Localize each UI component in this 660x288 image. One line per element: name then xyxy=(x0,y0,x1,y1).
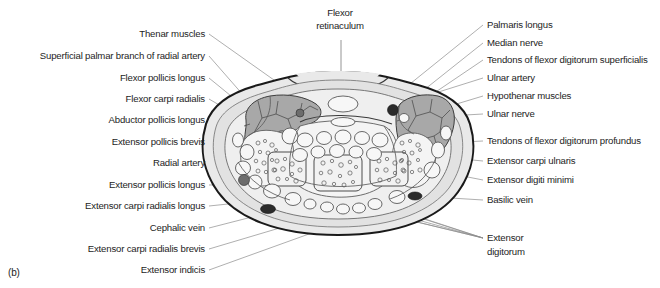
tendon-fds xyxy=(355,132,370,145)
label-ulnar-artery: Ulnar artery xyxy=(487,72,535,83)
tendon-fds xyxy=(372,133,388,147)
tendon-fdp xyxy=(311,146,325,158)
tendon-extensor-digiti-minimi xyxy=(389,191,405,204)
cephalic-vein-vessel xyxy=(261,205,276,214)
label-extensor-pollicis-brevis: Extensor pollicis brevis xyxy=(112,136,206,147)
tendon-abductor-pollicis-longus xyxy=(236,161,251,175)
label-abductor-pollicis-longus: Abductor pollicis longus xyxy=(109,114,206,125)
tendon-fdp xyxy=(367,148,382,161)
label-extensor-digitorum: Extensor digitorum xyxy=(487,232,525,257)
label-flexor-pollicis-longus: Flexor pollicis longus xyxy=(120,72,205,83)
tendon-extensor-indicis xyxy=(304,199,316,209)
label-flexor-retinaculum: Flexor retinaculum xyxy=(316,7,364,31)
label-thenar-muscles: Thenar muscles xyxy=(139,28,205,39)
label-cephalic-vein: Cephalic vein xyxy=(150,222,205,233)
label-tendons-flexor-digitorum-profundus: Tendons of flexor digitorum profundus xyxy=(487,135,641,146)
tendon-extensor-carpi-ulnaris xyxy=(424,162,440,178)
superficial-palmar-branch-radial-artery-vessel xyxy=(296,109,304,117)
tendon-extensor-digitorum xyxy=(321,202,334,212)
wrist-section xyxy=(203,71,474,235)
label-flexor-carpi-radialis: Flexor carpi radialis xyxy=(126,93,206,104)
tendon-fds xyxy=(335,130,351,144)
label-superficial-palmar-branch-radial-artery: Superficial palmar branch of radial arte… xyxy=(40,50,206,61)
tendon-ulnar-small xyxy=(441,126,452,140)
tendon-fds xyxy=(317,132,332,145)
tendon-palmaris-longus xyxy=(328,96,358,112)
tendon-fds xyxy=(297,133,313,147)
label-flexor-retinaculum-line1: Flexor xyxy=(327,7,354,18)
label-extensor-pollicis-longus: Extensor pollicis longus xyxy=(109,179,205,190)
basilic-vein-vessel xyxy=(408,192,422,200)
ulnar-artery-vessel xyxy=(388,105,399,116)
figure-panel: Flexor retinaculum Thenar muscles Superf… xyxy=(0,0,660,288)
label-extensor-indicis: Extensor indicis xyxy=(141,264,206,275)
tendon-ulnar-extra xyxy=(432,142,445,158)
label-extensor-carpi-radialis-brevis: Extensor carpi radialis brevis xyxy=(88,243,206,254)
label-radial-artery: Radial artery xyxy=(153,157,205,168)
label-median-nerve: Median nerve xyxy=(487,37,543,48)
wrist-cross-section-figure: Flexor retinaculum Thenar muscles Superf… xyxy=(0,0,660,288)
label-basilic-vein: Basilic vein xyxy=(487,194,533,205)
tendon-flexor-carpi-radialis xyxy=(240,145,254,160)
label-flexor-retinaculum-line2: retinaculum xyxy=(316,20,364,31)
tendon-radial-small xyxy=(233,133,244,147)
label-extensor-digiti-minimi: Extensor digiti minimi xyxy=(487,174,574,185)
radial-artery-vessel xyxy=(239,175,250,186)
label-palmaris-longus: Palmaris longus xyxy=(487,19,553,30)
nerve-median xyxy=(331,118,355,127)
label-hypothenar-muscles: Hypothenar muscles xyxy=(487,90,572,101)
label-tendons-flexor-digitorum-superficialis: Tendons of flexor digitorum superficiali… xyxy=(487,54,648,65)
tendon-fdp xyxy=(349,146,363,158)
panel-label: (b) xyxy=(8,267,20,278)
tendon-extensor-digitorum xyxy=(337,204,350,214)
label-extensor-digitorum-line2: digitorum xyxy=(487,246,525,257)
tendon-extensor-digitorum xyxy=(368,199,382,210)
label-extensor-digitorum-line1: Extensor xyxy=(487,232,524,243)
tendon-fdp xyxy=(330,145,345,158)
label-ulnar-nerve: Ulnar nerve xyxy=(487,108,535,119)
labels-left-column: Thenar muscles Superficial palmar branch… xyxy=(40,28,206,275)
label-extensor-carpi-radialis-longus: Extensor carpi radialis longus xyxy=(85,200,205,211)
labels-right-column: Palmaris longus Median nerve Tendons of … xyxy=(487,19,648,205)
tendon-extensor-digitorum xyxy=(353,203,366,213)
tendon-fdp xyxy=(293,149,308,162)
label-extensor-carpi-ulnaris: Extensor carpi ulnaris xyxy=(487,155,576,166)
